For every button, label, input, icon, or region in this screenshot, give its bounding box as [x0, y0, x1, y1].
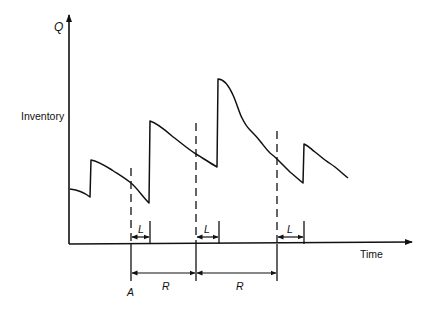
review-period-marker-1: R: [132, 273, 195, 292]
y-axis-label: Inventory: [21, 110, 65, 122]
review-period-marker-2: R: [197, 273, 276, 292]
inventory-curve: [70, 79, 348, 203]
lead-time-label-2: L: [204, 223, 210, 235]
lead-time-marker-1: L: [132, 221, 150, 244]
lead-time-marker-2: L: [197, 221, 219, 244]
review-period-label-2: R: [236, 280, 244, 292]
lead-time-marker-3: L: [278, 221, 304, 244]
lead-time-label-1: L: [138, 223, 144, 235]
x-axis: [69, 242, 412, 244]
inventory-diagram: Q Inventory Time L L L R R A: [0, 0, 432, 309]
x-axis-label: Time: [360, 248, 383, 260]
review-start-label: A: [126, 286, 134, 298]
lead-time-label-3: L: [287, 223, 293, 235]
q-label: Q: [54, 20, 63, 34]
review-period-label-1: R: [162, 280, 170, 292]
